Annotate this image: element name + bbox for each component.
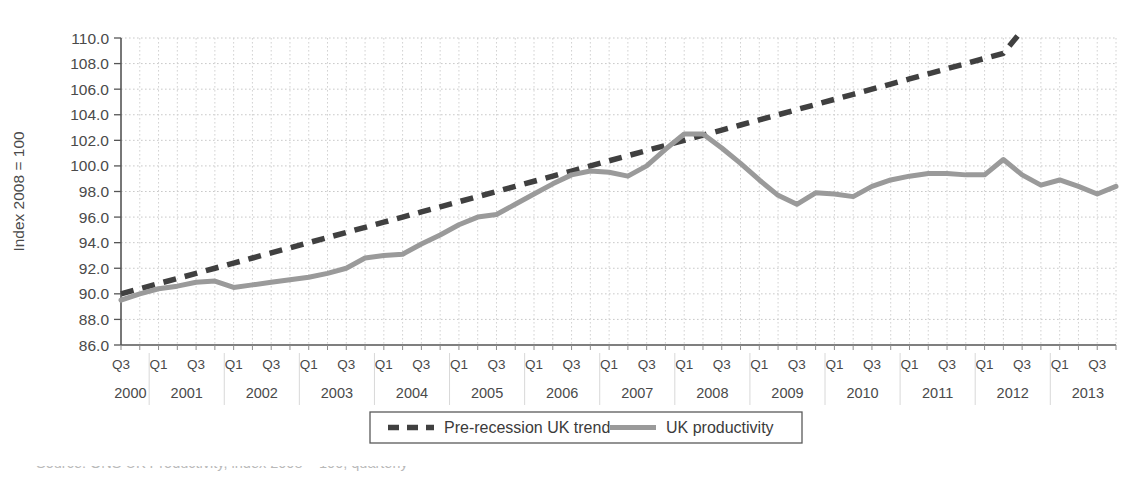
- x-year-label: 2009: [771, 385, 803, 401]
- x-quarter-label: Q3: [1088, 357, 1106, 372]
- x-quarter-label: Q1: [1051, 357, 1069, 372]
- x-quarter-label: Q1: [900, 357, 918, 372]
- caption-text: Source: ONS UK Productivity, index 2008 …: [36, 466, 596, 471]
- x-quarter-label: Q3: [112, 357, 130, 372]
- x-year-label: 2002: [246, 385, 278, 401]
- y-tick-label: 86.0: [79, 337, 110, 354]
- x-quarter-label: Q1: [525, 357, 543, 372]
- x-quarter-label: Q3: [262, 357, 280, 372]
- y-tick-label: 102.0: [70, 132, 109, 149]
- y-tick-label: 96.0: [79, 209, 110, 226]
- x-quarter-label: Q1: [976, 357, 994, 372]
- x-quarter-label: Q3: [187, 357, 205, 372]
- x-year-label: 2003: [321, 385, 353, 401]
- x-quarter-label: Q3: [412, 357, 430, 372]
- y-tick-label: 88.0: [79, 311, 110, 328]
- x-quarter-label: Q1: [600, 357, 618, 372]
- y-tick-label: 98.0: [79, 183, 110, 200]
- chart-figure: 110.0108.0106.0104.0102.0100.098.096.094…: [0, 0, 1142, 479]
- legend-label: UK productivity: [666, 419, 774, 436]
- x-quarter-label: Q1: [300, 357, 318, 372]
- x-quarter-label: Q3: [1013, 357, 1031, 372]
- y-tick-label: 90.0: [79, 285, 110, 302]
- x-quarter-label: Q1: [375, 357, 393, 372]
- x-year-label: 2010: [846, 385, 878, 401]
- y-tick-label: 100.0: [70, 157, 109, 174]
- x-quarter-label: Q3: [487, 357, 505, 372]
- x-quarter-label: Q3: [563, 357, 581, 372]
- x-quarter-label: Q3: [713, 357, 731, 372]
- y-tick-label: 110.0: [71, 30, 109, 47]
- x-quarter-label: Q1: [675, 357, 693, 372]
- y-tick-label: 106.0: [70, 81, 109, 98]
- x-year-label: 2008: [696, 385, 728, 401]
- x-quarter-label: Q1: [825, 357, 843, 372]
- y-tick-label: 108.0: [70, 55, 109, 72]
- y-tick-label: 92.0: [79, 260, 110, 277]
- x-quarter-label: Q1: [750, 357, 768, 372]
- y-axis-title-text: Index 2008 = 100: [10, 131, 27, 252]
- x-year-label: 2007: [621, 385, 653, 401]
- x-year-label: 2006: [546, 385, 578, 401]
- x-quarter-label: Q3: [938, 357, 956, 372]
- x-quarter-label: Q3: [638, 357, 656, 372]
- y-axis-title: Index 2008 = 100: [10, 131, 27, 252]
- x-year-label: 2005: [471, 385, 503, 401]
- legend-label: Pre-recession UK trend: [444, 419, 610, 436]
- x-quarter-label: Q1: [150, 357, 168, 372]
- x-year-label: 2013: [1072, 385, 1104, 401]
- x-quarter-label: Q1: [225, 357, 243, 372]
- x-quarter-label: Q3: [337, 357, 355, 372]
- x-year-label: 2012: [997, 385, 1029, 401]
- x-quarter-label: Q3: [788, 357, 806, 372]
- x-year-label: 2001: [171, 385, 203, 401]
- x-year-label: 2004: [396, 385, 428, 401]
- productivity-line-chart: 110.0108.0106.0104.0102.0100.098.096.094…: [0, 0, 1142, 460]
- x-quarter-label: Q1: [450, 357, 468, 372]
- clipped-caption: Source: ONS UK Productivity, index 2008 …: [36, 466, 596, 479]
- x-year-label: 2000: [114, 385, 146, 401]
- x-quarter-label: Q3: [863, 357, 881, 372]
- y-tick-label: 104.0: [70, 106, 109, 123]
- y-tick-label: 94.0: [79, 234, 110, 251]
- chart-legend: Pre-recession UK trendUK productivity: [370, 412, 802, 443]
- x-year-label: 2011: [922, 385, 953, 401]
